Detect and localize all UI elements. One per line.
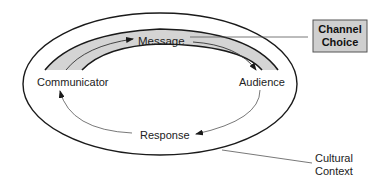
communicator-label: Communicator [37,76,109,88]
response-label: Response [140,129,190,141]
cultural-context-leader [222,150,312,163]
arrow-to-response [196,90,260,134]
channel-choice-line1: Channel [318,23,361,35]
arrow-to-communicator [60,91,132,133]
cultural-context-line1: Cultural [315,152,353,164]
channel-choice-line2: Choice [322,36,359,48]
cultural-context-line2: Context [315,165,353,177]
audience-label: Audience [239,76,285,88]
message-label: Message [138,35,185,47]
communication-diagram: Message Communicator Audience Response C… [0,0,388,185]
